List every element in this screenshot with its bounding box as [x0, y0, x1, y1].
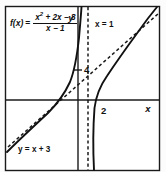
numerator-remainder: + 2x − 8	[43, 13, 75, 22]
formula-denominator: x − 1	[44, 24, 66, 33]
y-tick-label-4: 4	[84, 64, 90, 75]
x-intercept-label-2: 2	[101, 105, 106, 116]
vertical-asymptote-label: x = 1	[95, 20, 114, 29]
formula-numerator: x2 + 2x − 8	[33, 14, 77, 24]
function-formula: f(x) = x2 + 2x − 8 x − 1	[10, 14, 77, 33]
slant-asymptote-label: y = x + 3	[18, 145, 51, 154]
formula-equals-sign: =	[25, 19, 30, 28]
x-axis-label: x	[144, 103, 151, 114]
graph-figure: y x 4 2 x = 1 y = x + 3 f(x) = x2 + 2x −…	[0, 0, 166, 172]
formula-fraction: x2 + 2x − 8 x − 1	[33, 14, 77, 33]
formula-function-name: f(x)	[10, 19, 23, 28]
